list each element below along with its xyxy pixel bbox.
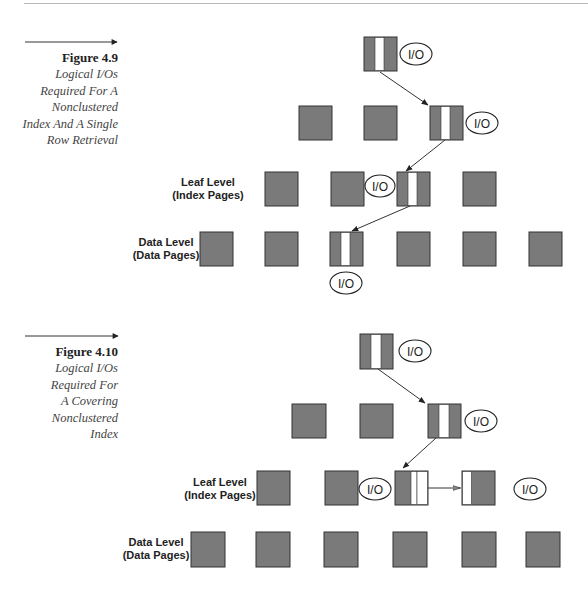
pointer-arrow-icon [406,140,445,171]
io-marker: I/O [365,175,395,197]
intermediate-page-selected [428,404,461,438]
svg-text:I/O: I/O [367,483,383,497]
data-page [526,532,560,567]
root-page-selected [364,37,397,71]
pointer-arrow-icon [352,206,410,231]
figure-4-9-diagram: I/O I/O Leaf Level (Index Pages) I/O [133,37,562,294]
data-level-sublabel: (Data Pages) [133,249,200,261]
leaf-page [257,471,290,505]
data-page [265,232,298,266]
index-page [360,404,393,438]
leaf-page [331,172,364,206]
data-page [397,232,430,266]
svg-text:I/O: I/O [372,180,388,194]
leaf-page-next [462,471,495,505]
data-page [529,232,562,266]
leaf-page-selected [395,471,428,505]
io-marker: I/O [400,43,432,65]
data-page [256,532,290,567]
data-level-label: Data Level [138,236,193,248]
data-page-selected [330,232,363,266]
svg-text:I/O: I/O [474,117,490,131]
figure-4-10-diagram: I/O I/O Leaf Level (Index Pages) I/O [123,334,560,567]
data-page [463,232,496,266]
data-page [191,532,225,567]
svg-text:I/O: I/O [473,415,489,429]
index-diagrams: I/O I/O Leaf Level (Index Pages) I/O [0,0,588,597]
svg-text:I/O: I/O [338,277,354,291]
index-page [292,404,326,438]
index-page [364,106,397,140]
io-marker: I/O [330,272,362,294]
index-page [299,106,332,140]
data-page [200,232,233,266]
io-marker: I/O [359,478,391,500]
intermediate-page-selected [430,106,463,140]
data-page [462,532,496,567]
data-level-label: Data Level [128,536,183,548]
pointer-arrow-icon [380,72,428,105]
leaf-level-sublabel: (Index Pages) [184,489,256,501]
svg-text:I/O: I/O [522,483,538,497]
leaf-page [463,172,496,206]
io-marker: I/O [465,410,497,432]
leaf-level-label: Leaf Level [181,176,235,188]
leaf-page [265,172,298,206]
root-page-selected [360,334,393,369]
pointer-arrow-icon [403,438,436,468]
svg-text:I/O: I/O [408,48,424,62]
data-page [393,532,427,567]
pointer-arrow-icon [378,369,425,403]
leaf-page-selected [397,172,430,206]
data-page [324,532,358,567]
svg-text:I/O: I/O [407,345,423,359]
io-marker: I/O [466,112,498,134]
data-level-sublabel: (Data Pages) [123,549,190,561]
io-marker: I/O [514,478,546,500]
io-marker: I/O [399,340,431,362]
leaf-level-sublabel: (Index Pages) [172,189,244,201]
leaf-page [325,471,358,505]
leaf-level-label: Leaf Level [193,476,247,488]
